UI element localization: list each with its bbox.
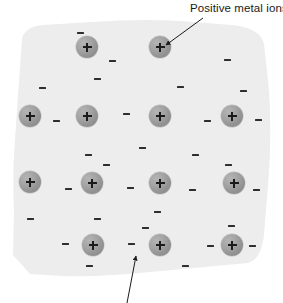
delocalised-electron [128,243,135,245]
plus-charge-icon [230,179,239,188]
positive-metal-ion [19,105,41,127]
positive-metal-ion [149,234,171,256]
delocalised-electron [85,154,92,156]
delocalised-electron [86,265,93,267]
delocalised-electron [240,90,247,92]
delocalised-electron [103,164,110,166]
positive-metal-ion [223,172,245,194]
delocalised-electron [182,265,189,267]
delocalised-electron [204,120,211,122]
label-positive-metal-ions: Positive metal ions [190,2,283,15]
plus-charge-icon [26,178,35,187]
delocalised-electron [27,218,34,220]
delocalised-electron [109,60,116,62]
delocalised-electron [139,147,146,149]
plus-charge-icon [156,241,165,250]
delocalised-electron [255,119,262,121]
positive-metal-ion [82,234,104,256]
delocalised-electron [77,32,84,34]
delocalised-electron [192,154,199,156]
plus-charge-icon [89,241,98,250]
delocalised-electron [228,225,235,227]
delocalised-electron [224,59,231,61]
positive-metal-ion [19,171,41,193]
plus-charge-icon [156,179,165,188]
plus-charge-icon [228,241,237,250]
delocalised-electron [253,189,260,191]
positive-metal-ion [76,105,98,127]
plus-charge-icon [88,179,97,188]
delocalised-electron [123,113,130,115]
metallic-bonding-diagram: Positive metal ions [0,0,283,303]
plus-charge-icon [83,112,92,121]
delocalised-electron [53,120,60,122]
positive-metal-ion [81,172,103,194]
delocalised-electron [62,243,69,245]
plus-charge-icon [156,112,165,121]
delocalised-electron [207,245,214,247]
delocalised-electron [94,78,101,80]
positive-metal-ion [149,36,171,58]
metal-lattice-background [0,0,283,303]
plus-charge-icon [228,112,237,121]
delocalised-electron [127,187,134,189]
positive-metal-ion [149,172,171,194]
delocalised-electron [39,87,46,89]
plus-charge-icon [156,43,165,52]
delocalised-electron [225,164,232,166]
positive-metal-ion [221,234,243,256]
delocalised-electron [94,218,101,220]
plus-charge-icon [26,112,35,121]
delocalised-electron [189,189,196,191]
delocalised-electron [249,245,256,247]
positive-metal-ion [149,105,171,127]
delocalised-electron [142,227,149,229]
delocalised-electron [154,211,161,213]
plus-charge-icon [83,43,92,52]
positive-metal-ion [221,105,243,127]
delocalised-electron [65,188,72,190]
delocalised-electron [177,86,184,88]
positive-metal-ion [76,36,98,58]
